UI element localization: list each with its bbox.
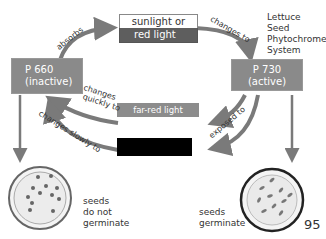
title-line-2: Seed [267,23,326,34]
p660-box: P 660 (inactive) [12,59,82,93]
title-line-3: Phytochrome [267,34,326,45]
petri-dish-no-germination [9,167,71,229]
sunlight-box: sunlight or [119,14,198,29]
red-light-label: red light [120,29,176,40]
sunlight-label: sunlight or [132,16,185,27]
outcome-right-line-1: seeds [199,207,245,218]
outcome-right: seeds germinate [199,207,245,229]
p730-name: P 730 [232,60,302,76]
p660-status: (inactive) [12,76,82,88]
page-number: 95 [304,217,321,232]
outcome-right-line-2: germinate [199,218,245,229]
outcome-left: seeds do not germinate [83,196,129,229]
title-line-4: System [267,45,326,56]
p660-name: P 660 [12,59,82,76]
red-light-box: red light [119,28,198,43]
outcome-left-line-1: seeds [83,196,129,207]
outcome-left-line-3: germinate [83,218,129,229]
title-line-1: Lettuce [267,12,326,23]
diagram-title: Lettuce Seed Phytochrome System [267,12,326,56]
far-red-light-box: far-red light [117,103,199,117]
petri-dish-germination [241,169,303,231]
darkness-box [117,138,192,156]
p730-status: (active) [232,76,302,88]
p730-box: P 730 (active) [232,60,302,90]
outcome-left-line-2: do not [83,207,129,218]
far-red-label: far-red light [133,105,183,115]
